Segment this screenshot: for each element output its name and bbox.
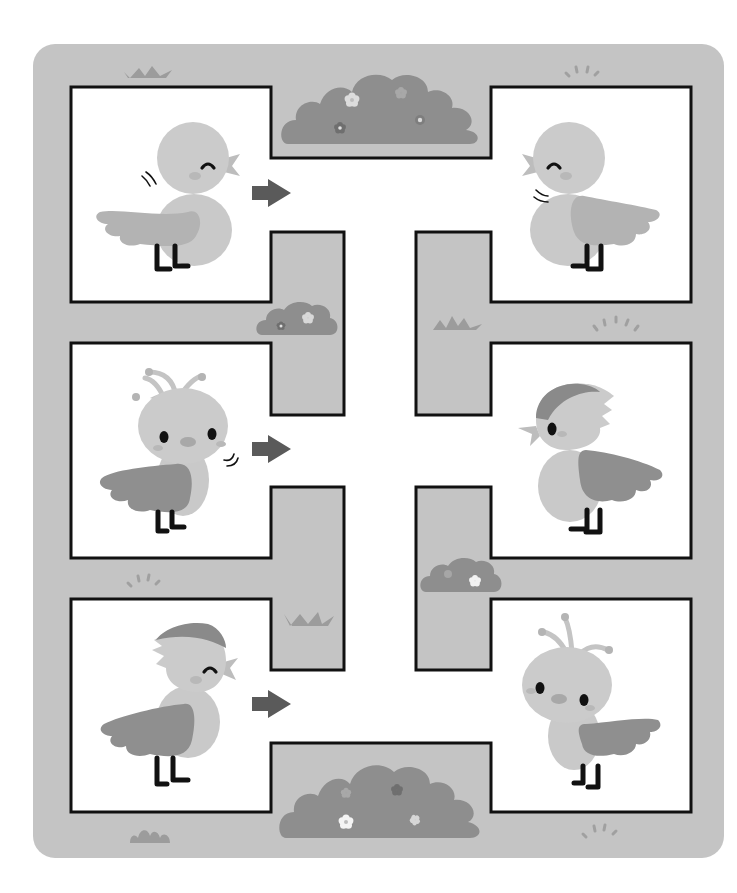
maze-board: [0, 0, 737, 893]
